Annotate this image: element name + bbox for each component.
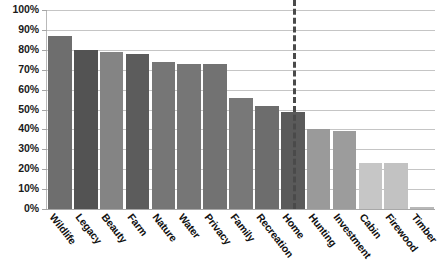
bar-farm — [126, 54, 150, 209]
x-tick-label: Nature — [151, 211, 180, 244]
x-tick-label: Beauty — [99, 211, 129, 245]
y-tick-label: 30% — [0, 143, 39, 154]
x-tick-label: Legacy — [73, 211, 104, 246]
bar-recreation — [255, 106, 279, 209]
x-tick-label: Farm — [125, 211, 150, 238]
bar-family — [229, 98, 253, 209]
y-tick-label: 90% — [0, 24, 39, 35]
bar-hunting — [307, 129, 331, 209]
y-tick-label: 70% — [0, 64, 39, 75]
y-tick-label: 60% — [0, 84, 39, 95]
x-tick-label: Cabin — [358, 211, 385, 241]
bar-privacy — [203, 64, 227, 209]
y-tick-label: 50% — [0, 104, 39, 115]
y-axis: 100%90%80%70%60%50%40%30%20%10%0% — [0, 0, 44, 209]
bar-investment — [333, 131, 357, 209]
y-tick-label: 100% — [0, 4, 39, 15]
bar-nature — [152, 62, 176, 209]
section-divider-line — [293, 0, 296, 209]
bar-cabin — [359, 163, 383, 209]
plot-area — [46, 10, 435, 209]
x-axis: WildlifeLegacyBeautyFarmNatureWaterPriva… — [46, 209, 434, 264]
y-tick-label: 20% — [0, 163, 39, 174]
bar-water — [177, 64, 201, 209]
bar-firewood — [384, 163, 408, 209]
bar-legacy — [74, 50, 98, 209]
x-tick-label: Water — [177, 211, 204, 240]
y-tick-label: 80% — [0, 44, 39, 55]
bar-chart: 100%90%80%70%60%50%40%30%20%10%0% Wildli… — [0, 0, 441, 264]
y-tick-label: 0% — [0, 203, 39, 214]
bars-group — [47, 10, 435, 209]
bar-wildlife — [48, 36, 72, 209]
y-tick-label: 40% — [0, 123, 39, 134]
bar-beauty — [100, 52, 124, 209]
y-tick-label: 10% — [0, 183, 39, 194]
